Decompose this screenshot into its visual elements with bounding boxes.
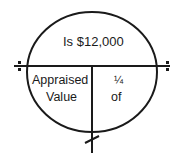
of-label: of (111, 89, 121, 105)
quarter-fraction: ¼ (114, 72, 123, 88)
value-label: Value (46, 89, 77, 105)
formula-circle-diagram (0, 0, 181, 162)
appraised-label: Appraised (32, 72, 88, 88)
top-text: Is $12,000 (63, 34, 124, 50)
